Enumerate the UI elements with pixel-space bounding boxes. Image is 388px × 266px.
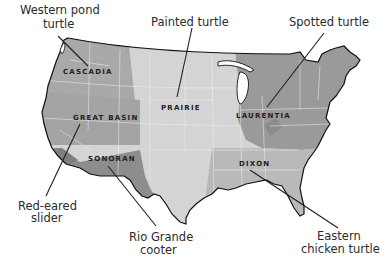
region-label-prairie: PRAIRIE <box>161 104 201 112</box>
species-label-spotted-turtle: Spotted turtle <box>289 15 369 29</box>
region-label-dixon: DIXON <box>239 160 270 168</box>
region-label-sonoran: SONORAN <box>88 155 136 163</box>
species-label-eastern-chicken-turtle-line1: Eastern <box>317 229 361 243</box>
region-label-great-basin: GREAT BASIN <box>73 114 138 122</box>
species-label-rio-grande-cooter-line1: Rio Grande <box>129 230 193 244</box>
species-label-rio-grande-cooter-line2: cooter <box>140 243 177 257</box>
region-label-cascadia: CASCADIA <box>63 68 113 76</box>
species-label-painted-turtle: Painted turtle <box>151 15 229 29</box>
region-label-laurentia: LAURENTIA <box>236 112 291 120</box>
turtle-region-map: CASCADIA GREAT BASIN SONORAN PRAIRIE LAU… <box>0 0 388 266</box>
species-label-eastern-chicken-turtle-line2: chicken turtle <box>301 242 380 256</box>
species-label-western-pond-turtle-line2: turtle <box>43 17 74 31</box>
us-map-svg: CASCADIA GREAT BASIN SONORAN PRAIRIE LAU… <box>0 0 388 266</box>
species-label-red-eared-slider-line2: slider <box>31 211 63 225</box>
region-fills <box>0 0 388 266</box>
species-label-western-pond-turtle-line1: Western pond <box>20 3 100 17</box>
